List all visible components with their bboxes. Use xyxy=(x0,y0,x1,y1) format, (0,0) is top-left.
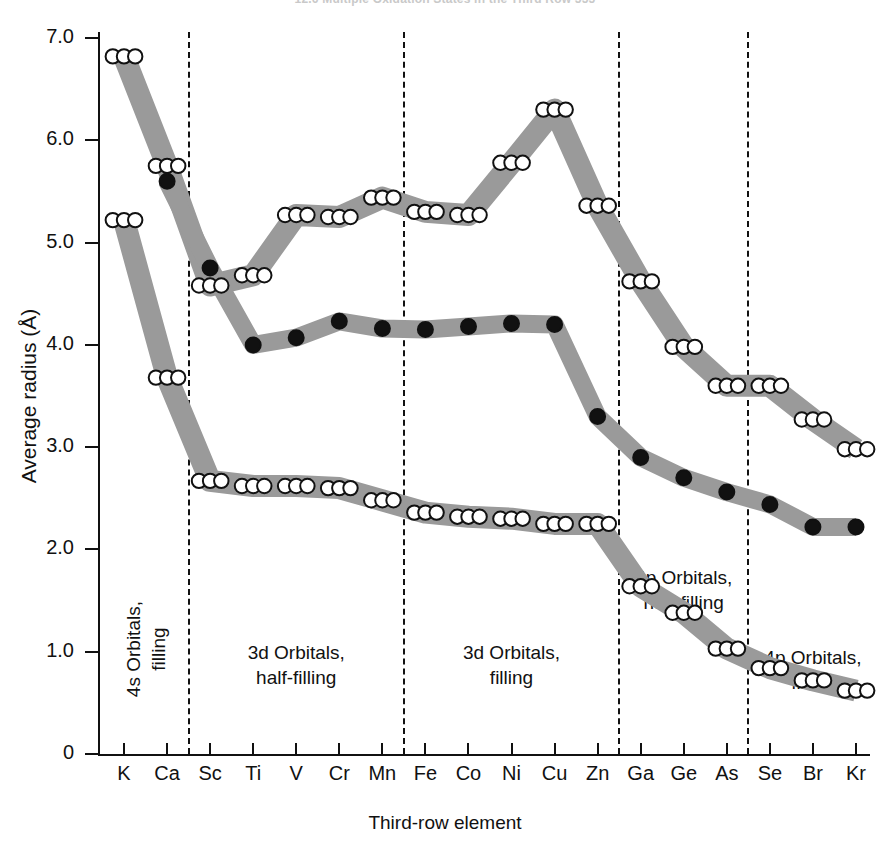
data-point-3d xyxy=(203,261,218,276)
data-point-outer-lower xyxy=(472,510,486,524)
data-point-outer-lower xyxy=(860,683,874,697)
x-axis-title: Third-row element xyxy=(0,812,890,834)
data-point-3d xyxy=(504,316,519,331)
data-point-outer-lower xyxy=(300,479,314,493)
data-point-3d xyxy=(719,485,734,500)
y-axis-title: Average radius (Å) xyxy=(17,136,41,656)
data-point-outer-upper xyxy=(386,190,400,204)
figure-root: 12.6 Multiple Oxidation States in the Th… xyxy=(0,0,890,866)
data-point-3d xyxy=(332,314,347,329)
data-point-outer-upper xyxy=(602,199,616,213)
data-point-outer-upper xyxy=(645,274,659,288)
data-point-outer-lower xyxy=(688,606,702,620)
data-point-3d xyxy=(590,409,605,424)
data-point-outer-upper xyxy=(516,156,530,170)
data-point-3d xyxy=(633,450,648,465)
data-point-outer-upper xyxy=(171,159,185,173)
data-point-3d xyxy=(762,497,777,512)
data-point-outer-lower xyxy=(774,661,788,675)
data-point-3d xyxy=(676,470,691,485)
data-point-outer-lower xyxy=(645,579,659,593)
data-point-outer-upper xyxy=(257,268,271,282)
data-point-outer-lower xyxy=(214,474,228,488)
data-point-outer-upper xyxy=(343,210,357,224)
data-point-outer-lower xyxy=(343,481,357,495)
data-point-3d xyxy=(160,174,175,189)
chart-plot-area xyxy=(0,0,890,866)
data-point-outer-lower xyxy=(602,517,616,531)
data-point-outer-lower xyxy=(128,213,142,227)
data-point-outer-upper xyxy=(774,379,788,393)
data-point-outer-lower xyxy=(171,370,185,384)
data-point-3d xyxy=(375,321,390,336)
data-point-outer-lower xyxy=(429,505,443,519)
data-point-3d xyxy=(461,319,476,334)
data-point-outer-upper xyxy=(128,49,142,63)
band-outer-upper xyxy=(124,56,856,449)
data-point-3d xyxy=(289,330,304,345)
data-point-outer-upper xyxy=(214,278,228,292)
data-point-outer-upper xyxy=(731,379,745,393)
data-point-outer-lower xyxy=(731,641,745,655)
data-point-3d xyxy=(849,519,864,534)
data-point-outer-lower xyxy=(516,512,530,526)
data-point-outer-upper xyxy=(688,340,702,354)
data-point-3d xyxy=(418,322,433,337)
data-point-outer-lower xyxy=(257,479,271,493)
data-point-outer-lower xyxy=(386,493,400,507)
data-point-outer-upper xyxy=(300,208,314,222)
data-point-3d xyxy=(547,317,562,332)
data-point-outer-upper xyxy=(472,208,486,222)
data-point-outer-lower xyxy=(817,673,831,687)
data-point-outer-lower xyxy=(559,517,573,531)
data-point-outer-upper xyxy=(429,205,443,219)
data-point-3d xyxy=(246,337,261,352)
data-point-outer-upper xyxy=(860,442,874,456)
data-point-outer-upper xyxy=(817,412,831,426)
data-point-outer-upper xyxy=(559,102,573,116)
data-point-3d xyxy=(805,519,820,534)
